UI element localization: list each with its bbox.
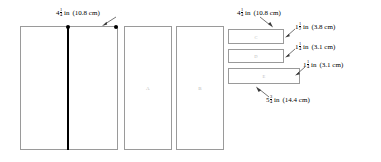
m2-fraction: 14	[241, 8, 243, 18]
rectangle-d: D	[228, 49, 284, 63]
rectangle-a: A	[124, 26, 172, 150]
leader-line-top-right	[258, 17, 274, 28]
m1-unit: in	[64, 9, 69, 17]
measurement-label-top-left: 414in(10.8 cm)	[56, 8, 100, 18]
m3-metric: (3.8 cm)	[312, 23, 336, 31]
m3-fraction: 12	[299, 22, 301, 32]
leader-line-e-width	[255, 86, 271, 98]
rectangle-e: E	[228, 68, 300, 84]
rectangle-big	[20, 26, 118, 150]
measurement-label-d: 114in(3.1 cm)	[295, 42, 335, 52]
leader-line-c	[285, 28, 297, 38]
m3-denominator: 2	[299, 26, 301, 31]
rectangle-b: B	[176, 26, 224, 150]
rectangle-c: C	[228, 29, 284, 44]
rectangle-b-label: B	[177, 86, 223, 91]
m1-denominator: 4	[60, 12, 62, 17]
rectangle-c-label: C	[229, 34, 283, 39]
m2-denominator: 4	[241, 12, 243, 17]
m4-denominator: 4	[299, 46, 301, 51]
measurement-label-c: 112in(3.8 cm)	[295, 22, 335, 32]
rectangle-e-label: E	[229, 74, 299, 79]
leader-line-top-left	[102, 17, 118, 27]
m6-metric: (14.4 cm)	[283, 96, 310, 104]
vertical-divider-line	[67, 26, 69, 150]
diagram-canvas: A B C D E 414in(10.8 cm) 414in(10.8 cm) …	[0, 0, 381, 162]
m6-denominator: 4	[270, 99, 272, 104]
m6-unit: in	[274, 96, 279, 104]
rectangle-a-label: A	[125, 86, 171, 91]
rectangle-d-label: D	[229, 54, 283, 59]
m4-metric: (3.1 cm)	[312, 43, 336, 51]
m2-whole: 4	[237, 9, 241, 17]
m5-metric: (3.1 cm)	[320, 61, 344, 69]
endpoint-dot-left	[66, 25, 70, 29]
m2-unit: in	[245, 9, 250, 17]
m4-fraction: 14	[299, 42, 301, 52]
m5-denominator: 4	[307, 64, 309, 69]
m2-metric: (10.8 cm)	[254, 9, 281, 17]
measurement-label-e-width: 534in(14.4 cm)	[266, 95, 310, 105]
m5-unit: in	[311, 61, 316, 69]
m5-fraction: 14	[307, 60, 309, 70]
m1-fraction: 14	[60, 8, 62, 18]
m3-unit: in	[303, 23, 308, 31]
measurement-label-e-height: 114in(3.1 cm)	[303, 60, 343, 70]
leader-line-d	[285, 48, 297, 58]
leader-line-e-height	[295, 66, 307, 76]
m1-metric: (10.8 cm)	[73, 9, 100, 17]
m4-unit: in	[303, 43, 308, 51]
m1-whole: 4	[56, 9, 60, 17]
